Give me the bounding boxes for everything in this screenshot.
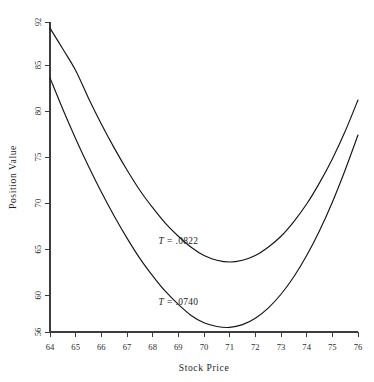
x-tick-label: 72 <box>251 342 260 352</box>
annotation-value: .0822 <box>176 236 199 246</box>
chart-canvas: 5660657075808592 Position Value 64656667… <box>0 0 374 382</box>
y-axis: 5660657075808592 Position Value <box>7 18 50 337</box>
y-tick-label: 65 <box>33 245 43 254</box>
series-annotation-2: T=.0740 <box>158 297 198 307</box>
x-tick-label: 76 <box>354 342 363 352</box>
x-tick-label: 66 <box>97 342 106 352</box>
y-tick-label: 60 <box>33 291 43 300</box>
annotation-equals: = <box>167 297 173 307</box>
y-tick-label: 80 <box>33 107 43 116</box>
annotation-value: .0740 <box>176 297 199 307</box>
annotation-symbol: T <box>158 236 164 246</box>
x-tick-label: 74 <box>302 342 311 352</box>
y-tick-label: 75 <box>33 153 43 162</box>
annotation-symbol: T <box>158 297 164 307</box>
x-axis: 64656667686970717273747576 Stock Price <box>46 332 363 373</box>
x-tick-label: 65 <box>71 342 80 352</box>
x-tick-label: 68 <box>148 342 157 352</box>
x-axis-ticks: 64656667686970717273747576 <box>46 332 363 352</box>
series-annotation-1: T=.0822 <box>158 236 198 246</box>
y-axis-title: Position Value <box>7 145 18 209</box>
x-tick-label: 64 <box>46 342 55 352</box>
x-tick-label: 71 <box>225 342 234 352</box>
y-tick-label: 56 <box>33 327 43 336</box>
annotation-equals: = <box>167 236 173 246</box>
x-tick-label: 75 <box>328 342 337 352</box>
y-tick-label: 85 <box>33 61 43 70</box>
series-curve-1 <box>50 28 358 262</box>
series-curve-2 <box>50 78 358 328</box>
y-tick-label: 70 <box>33 199 43 208</box>
x-tick-label: 69 <box>174 342 183 352</box>
position-value-chart: 5660657075808592 Position Value 64656667… <box>0 0 374 382</box>
x-axis-title: Stock Price <box>179 362 230 373</box>
series-curves <box>50 28 358 327</box>
x-tick-label: 67 <box>123 342 132 352</box>
x-tick-label: 70 <box>200 342 209 352</box>
series-annotations: T=.0822T=.0740 <box>158 236 198 308</box>
y-tick-label: 92 <box>33 18 43 27</box>
y-axis-ticks: 5660657075808592 <box>33 18 50 337</box>
x-tick-label: 73 <box>277 342 286 352</box>
